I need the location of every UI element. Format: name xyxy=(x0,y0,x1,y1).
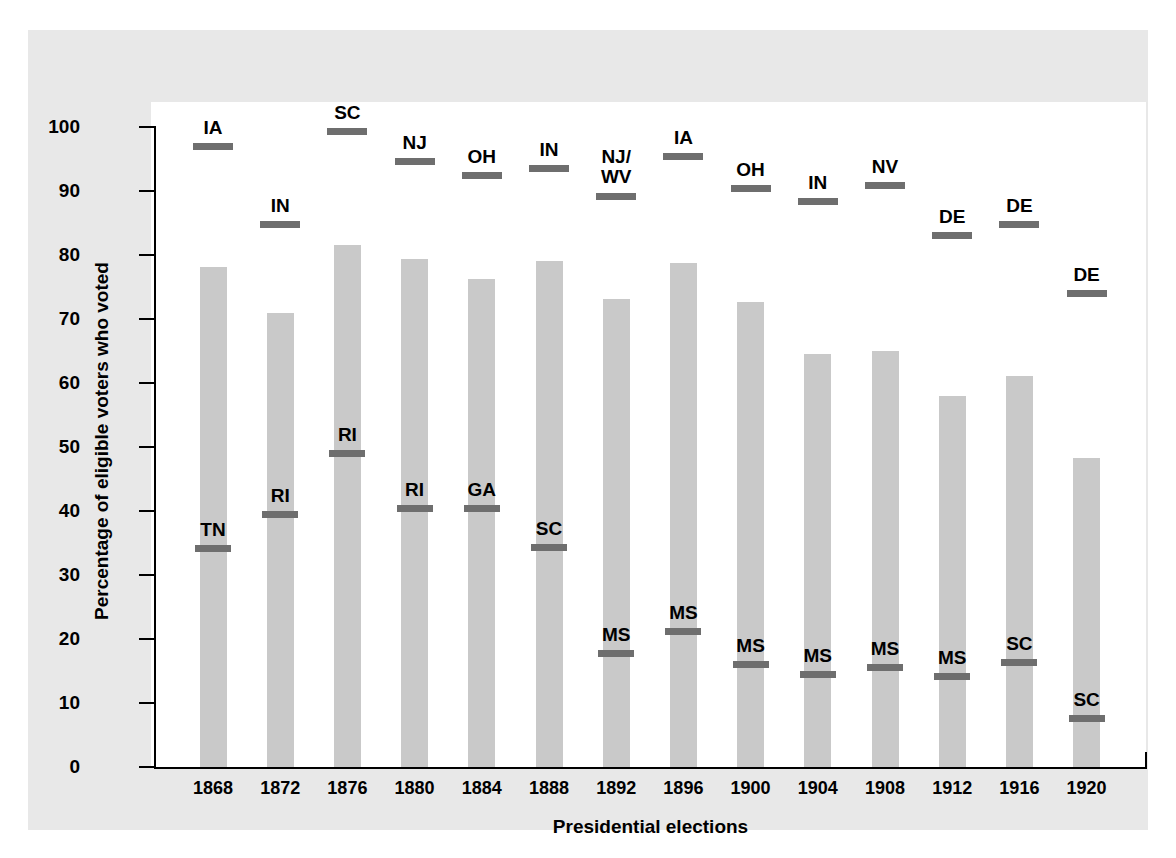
x-tick-label-1892: 1892 xyxy=(581,778,651,799)
high-marker-1868 xyxy=(193,143,233,150)
y-tick-mark xyxy=(139,254,154,256)
x-tick-label-1916: 1916 xyxy=(984,778,1054,799)
x-tick-label-1876: 1876 xyxy=(312,778,382,799)
bar-1876 xyxy=(334,245,361,767)
low-state-label-1916: SC xyxy=(981,634,1057,654)
high-state-label-1908: NV xyxy=(847,157,923,177)
x-tick-label-1884: 1884 xyxy=(447,778,517,799)
x-tick-label-1880: 1880 xyxy=(380,778,450,799)
y-tick-label: 10 xyxy=(20,693,80,712)
y-tick-mark xyxy=(139,190,154,192)
x-tick-label-1872: 1872 xyxy=(245,778,315,799)
bar-1900 xyxy=(737,302,764,767)
bar-1904 xyxy=(804,354,831,767)
high-marker-1876 xyxy=(327,128,367,135)
low-marker-1908 xyxy=(867,664,903,671)
high-state-label-1880: NJ xyxy=(377,133,453,153)
high-marker-1900 xyxy=(731,185,771,192)
low-state-label-1912: MS xyxy=(914,648,990,668)
high-marker-1908 xyxy=(865,182,905,189)
y-tick-mark xyxy=(139,510,154,512)
low-marker-1876 xyxy=(329,450,365,457)
bar-1868 xyxy=(200,267,227,767)
y-tick-mark xyxy=(139,318,154,320)
low-state-label-1892: MS xyxy=(578,625,654,645)
high-state-label-1892: NJ/ WV xyxy=(578,147,654,187)
bar-1892 xyxy=(603,299,630,767)
low-marker-1896 xyxy=(665,628,701,635)
high-state-label-1884: OH xyxy=(444,147,520,167)
y-tick-mark xyxy=(139,446,154,448)
high-state-label-1920: DE xyxy=(1049,265,1125,285)
low-state-label-1920: SC xyxy=(1049,690,1125,710)
low-marker-1888 xyxy=(531,544,567,551)
x-tick-label-1920: 1920 xyxy=(1052,778,1122,799)
y-tick-label: 80 xyxy=(20,245,80,264)
y-tick-mark xyxy=(139,638,154,640)
x-axis-title: Presidential elections xyxy=(154,816,1147,838)
y-axis-title: Percentage of eligible voters who voted xyxy=(91,161,113,721)
y-tick-mark xyxy=(139,382,154,384)
low-state-label-1900: MS xyxy=(713,636,789,656)
high-state-label-1868: IA xyxy=(175,118,251,138)
x-tick-label-1908: 1908 xyxy=(850,778,920,799)
high-state-label-1896: IA xyxy=(645,128,721,148)
low-marker-1916 xyxy=(1001,659,1037,666)
x-tick-label-1900: 1900 xyxy=(716,778,786,799)
x-axis-right-cap xyxy=(1145,752,1147,769)
low-state-label-1880: RI xyxy=(377,480,453,500)
y-tick-label: 60 xyxy=(20,373,80,392)
bar-1908 xyxy=(872,351,899,767)
low-marker-1912 xyxy=(934,673,970,680)
high-marker-1904 xyxy=(798,198,838,205)
high-marker-1912 xyxy=(932,232,972,239)
bar-1884 xyxy=(468,279,495,767)
high-marker-1872 xyxy=(260,221,300,228)
y-tick-label: 0 xyxy=(20,757,80,776)
x-tick-label-1888: 1888 xyxy=(514,778,584,799)
y-tick-label: 70 xyxy=(20,309,80,328)
bar-1896 xyxy=(670,263,697,767)
high-marker-1888 xyxy=(529,165,569,172)
y-tick-mark xyxy=(139,126,154,128)
x-axis-line xyxy=(154,767,1147,769)
y-tick-mark xyxy=(139,702,154,704)
x-tick-label-1912: 1912 xyxy=(917,778,987,799)
figure-root: 0102030405060708090100 18681872187618801… xyxy=(0,0,1176,858)
y-tick-label: 40 xyxy=(20,501,80,520)
high-marker-1884 xyxy=(462,172,502,179)
low-state-label-1876: RI xyxy=(309,425,385,445)
low-marker-1900 xyxy=(733,661,769,668)
high-marker-1916 xyxy=(999,221,1039,228)
y-tick-mark xyxy=(139,766,154,768)
bar-1888 xyxy=(536,261,563,767)
high-state-label-1888: IN xyxy=(511,140,587,160)
bar-1916 xyxy=(1006,376,1033,767)
high-marker-1880 xyxy=(395,158,435,165)
y-axis-line xyxy=(154,126,156,769)
high-marker-1920 xyxy=(1067,290,1107,297)
y-tick-label: 100 xyxy=(20,117,80,136)
low-marker-1920 xyxy=(1069,715,1105,722)
low-marker-1872 xyxy=(262,511,298,518)
bar-1912 xyxy=(939,396,966,767)
y-tick-mark xyxy=(139,574,154,576)
low-state-label-1908: MS xyxy=(847,639,923,659)
y-tick-label: 20 xyxy=(20,629,80,648)
x-tick-label-1896: 1896 xyxy=(648,778,718,799)
high-state-label-1916: DE xyxy=(981,196,1057,216)
low-marker-1868 xyxy=(195,545,231,552)
high-state-label-1876: SC xyxy=(309,103,385,123)
high-marker-1892 xyxy=(596,193,636,200)
low-state-label-1904: MS xyxy=(780,646,856,666)
low-state-label-1872: RI xyxy=(242,486,318,506)
y-tick-label: 90 xyxy=(20,181,80,200)
high-state-label-1900: OH xyxy=(713,160,789,180)
low-marker-1904 xyxy=(800,671,836,678)
low-state-label-1868: TN xyxy=(175,520,251,540)
low-state-label-1884: GA xyxy=(444,480,520,500)
x-tick-label-1868: 1868 xyxy=(178,778,248,799)
high-state-label-1904: IN xyxy=(780,173,856,193)
bar-1880 xyxy=(401,259,428,767)
y-tick-label: 30 xyxy=(20,565,80,584)
